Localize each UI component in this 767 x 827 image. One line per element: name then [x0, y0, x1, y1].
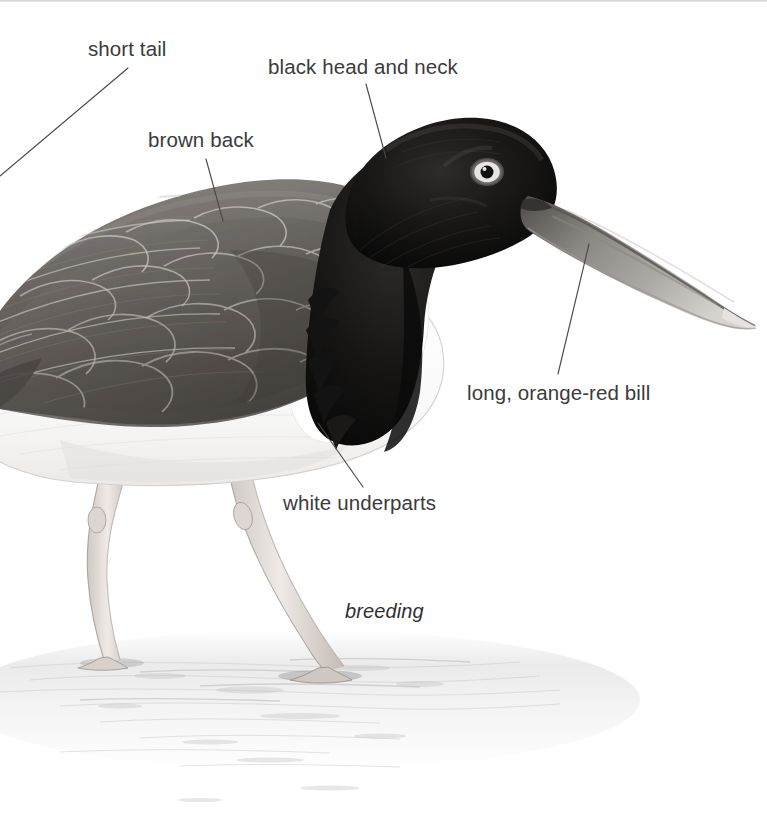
leader-white-underparts — [318, 423, 363, 487]
label-brown-back: brown back — [148, 129, 254, 151]
label-long-orange-red-bill: long, orange-red bill — [467, 382, 650, 404]
leader-black-head-and-neck — [366, 84, 386, 158]
label-white-underparts: white underparts — [283, 492, 436, 514]
label-short-tail: short tail — [88, 38, 166, 60]
leader-short-tail — [0, 68, 128, 176]
leader-brown-back — [206, 159, 223, 221]
illustration-plate: short tail black head and neck brown bac… — [0, 0, 767, 827]
label-black-head-and-neck: black head and neck — [268, 56, 458, 78]
plumage-caption: breeding — [345, 600, 424, 622]
leader-long-orange-red-bill — [558, 244, 589, 374]
leader-lines — [0, 0, 767, 827]
